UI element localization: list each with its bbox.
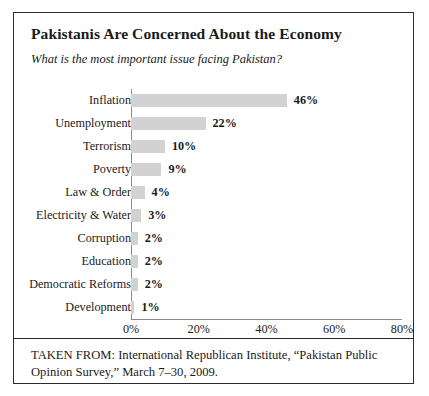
source-citation: TAKEN FROM: International Republican Ins… bbox=[31, 347, 399, 381]
bar-category-label: Unemployment bbox=[0, 112, 131, 135]
bar-track: 4% bbox=[131, 181, 413, 204]
bar bbox=[131, 278, 138, 291]
bar-row: Democratic Reforms2% bbox=[14, 273, 413, 296]
x-tick-label: 0% bbox=[123, 322, 139, 337]
bar-track: 2% bbox=[131, 250, 413, 273]
bar-category-label: Inflation bbox=[0, 89, 131, 112]
bar-track: 22% bbox=[131, 112, 413, 135]
bar bbox=[131, 301, 134, 314]
chart-title: Pakistanis Are Concerned About the Econo… bbox=[31, 25, 342, 43]
bar-value-label: 22% bbox=[213, 112, 237, 135]
bar-value-label: 9% bbox=[168, 158, 186, 181]
bar-track: 3% bbox=[131, 204, 413, 227]
bar bbox=[131, 232, 138, 245]
chart-figure: Pakistanis Are Concerned About the Econo… bbox=[13, 12, 414, 384]
bar-track: 1% bbox=[131, 296, 413, 319]
x-tick-label: 80% bbox=[391, 322, 413, 337]
bar bbox=[131, 163, 161, 176]
bar-row: Electricity & Water3% bbox=[14, 204, 413, 227]
bar-category-label: Education bbox=[0, 250, 131, 273]
chart-subtitle: What is the most important issue facing … bbox=[31, 52, 282, 67]
x-tick-label: 40% bbox=[255, 322, 277, 337]
x-tick-label: 20% bbox=[188, 322, 210, 337]
bar-value-label: 4% bbox=[152, 181, 170, 204]
bar-category-label: Terrorism bbox=[0, 135, 131, 158]
bar-row: Education2% bbox=[14, 250, 413, 273]
bar-value-label: 1% bbox=[141, 296, 159, 319]
bar bbox=[131, 209, 141, 222]
bar-track: 9% bbox=[131, 158, 413, 181]
bar bbox=[131, 255, 138, 268]
bar-row: Inflation46% bbox=[14, 89, 413, 112]
x-axis-ticks: 0%20%40%60%80% bbox=[14, 322, 413, 342]
bar-category-label: Democratic Reforms bbox=[0, 273, 131, 296]
bar-row: Terrorism10% bbox=[14, 135, 413, 158]
bar-rows: Inflation46%Unemployment22%Terrorism10%P… bbox=[14, 89, 413, 319]
bar-category-label: Corruption bbox=[0, 227, 131, 250]
bar-row: Law & Order4% bbox=[14, 181, 413, 204]
bar-track: 10% bbox=[131, 135, 413, 158]
bar bbox=[131, 94, 287, 107]
bar-value-label: 2% bbox=[145, 273, 163, 296]
bar-value-label: 10% bbox=[172, 135, 196, 158]
bar-category-label: Electricity & Water bbox=[0, 204, 131, 227]
bar-row: Corruption2% bbox=[14, 227, 413, 250]
bar-row: Unemployment22% bbox=[14, 112, 413, 135]
bar-row: Poverty9% bbox=[14, 158, 413, 181]
bar-track: 2% bbox=[131, 227, 413, 250]
bar-value-label: 2% bbox=[145, 250, 163, 273]
bar bbox=[131, 117, 206, 130]
bar bbox=[131, 140, 165, 153]
x-tick-label: 60% bbox=[323, 322, 345, 337]
bar bbox=[131, 186, 145, 199]
bar-row: Development1% bbox=[14, 296, 413, 319]
bar-track: 2% bbox=[131, 273, 413, 296]
bar-track: 46% bbox=[131, 89, 413, 112]
bar-value-label: 3% bbox=[148, 204, 166, 227]
bar-value-label: 2% bbox=[145, 227, 163, 250]
bar-category-label: Law & Order bbox=[0, 181, 131, 204]
footer-divider bbox=[14, 338, 413, 339]
bar-category-label: Poverty bbox=[0, 158, 131, 181]
bar-value-label: 46% bbox=[294, 89, 318, 112]
x-axis-line bbox=[131, 319, 402, 320]
plot-area: Inflation46%Unemployment22%Terrorism10%P… bbox=[14, 89, 413, 327]
bar-category-label: Development bbox=[0, 296, 131, 319]
